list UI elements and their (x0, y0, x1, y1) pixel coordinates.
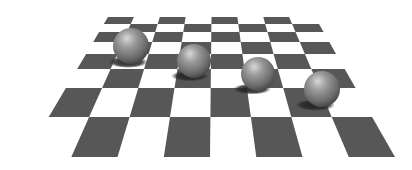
board-tile-dark (71, 117, 129, 157)
board-tile-dark (211, 54, 245, 69)
board-tile-dark (164, 117, 211, 157)
sphere-3 (241, 57, 275, 91)
board-tile-dark (49, 88, 102, 117)
board-tile-dark (274, 54, 312, 69)
sphere-2 (177, 44, 211, 78)
board-tile-dark (332, 117, 395, 157)
render-canvas (0, 0, 412, 170)
board-tile-dark (211, 32, 241, 42)
checkerboard-plane (49, 17, 395, 157)
board-tile-dark (102, 69, 144, 88)
board-tile-dark (144, 54, 180, 69)
checkerboard-spheres-scene: 3D render: four gray spheres resting on … (0, 0, 412, 170)
board-tile-dark (241, 42, 274, 54)
board-tile-dark (251, 117, 303, 157)
sphere-1 (113, 28, 149, 64)
board-tile-dark (158, 17, 186, 24)
board-tile-dark (152, 32, 183, 42)
board-tile-dark (130, 88, 175, 117)
board-tile-dark (238, 24, 267, 32)
board-tile-dark (211, 17, 238, 24)
board-tile-dark (292, 24, 324, 32)
board-tile-dark (183, 24, 211, 32)
board-tile-dark (104, 17, 134, 24)
board-tile-dark (300, 42, 336, 54)
sphere-4 (304, 71, 340, 107)
board-tile-dark (268, 32, 300, 42)
board-tile-dark (263, 17, 292, 24)
